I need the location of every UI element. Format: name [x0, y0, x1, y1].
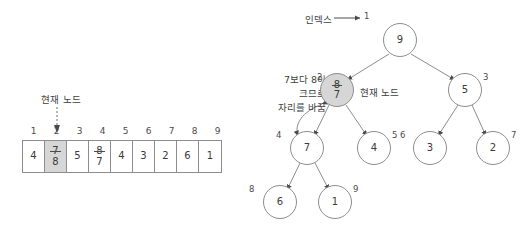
array-cell-value: 6: [183, 151, 191, 162]
tree-node-index-7: 7: [511, 130, 516, 140]
array-index-label: 4: [91, 126, 114, 136]
array-cell-old-value: 8: [95, 146, 103, 157]
tree-node-1: 9: [383, 23, 417, 57]
heap-swap-diagram: 현재 노드 1 2 3 4 5 6 7 8 9 4 7 8: [0, 0, 526, 230]
array-index-label: 1: [22, 126, 45, 136]
array-index-label: 3: [68, 126, 91, 136]
tree-node-value: 3: [427, 143, 433, 154]
tree-node-3: 5: [448, 73, 482, 107]
array-section: 현재 노드 1 2 3 4 5 6 7 8 9 4 7 8: [0, 0, 250, 230]
array-cell: 1: [199, 141, 221, 172]
tree-node-value: 2: [490, 143, 496, 154]
array-index-label: 5: [114, 126, 137, 136]
swap-note-line: 자리를 바꿈: [278, 101, 326, 115]
array-row: 4 7 8 5 8 7 4 3 2 6: [22, 140, 222, 173]
array-index-label: 2: [45, 126, 68, 136]
array-cell-current: 7 8: [45, 141, 67, 172]
array-cell-swapped: 8 7: [89, 141, 111, 172]
array-cell-value: 3: [139, 151, 147, 162]
tree-node-index-3: 3: [483, 72, 488, 82]
swap-note-line: 크므로: [278, 87, 326, 101]
array-cell-new-value: 8: [51, 157, 59, 168]
array-cell-value: 4: [117, 151, 125, 162]
tree-node-4: 7: [290, 131, 324, 165]
tree-node-2-current: 8 7: [320, 73, 354, 107]
array-cell-value: 2: [161, 151, 169, 162]
root-index-label: 1: [364, 11, 369, 21]
array-cell: 2: [155, 141, 177, 172]
tree-node-index-6: 6: [400, 130, 405, 140]
tree-node-value: 9: [397, 35, 403, 46]
array-cell: 4: [23, 141, 45, 172]
tree-node-value: 1: [332, 197, 338, 208]
array-index-label: 8: [183, 126, 206, 136]
tree-node-8: 6: [263, 185, 297, 219]
array-cell-old-value: 7: [51, 146, 59, 157]
array-cell-value: 5: [73, 151, 81, 162]
tree-node-9: 1: [318, 185, 352, 219]
tree-node-value: 4: [371, 143, 377, 154]
tree-node-index-5: 5: [392, 130, 397, 140]
tree-node-index-9: 9: [353, 184, 358, 194]
array-index-labels: 1 2 3 4 5 6 7 8 9: [22, 126, 229, 136]
array-index-label: 9: [206, 126, 229, 136]
tree-node-new-value: 7: [334, 90, 340, 101]
array-cell: 5: [67, 141, 89, 172]
tree-node-5: 4: [357, 131, 391, 165]
tree-node-value: 5: [462, 85, 468, 96]
array-cell: 3: [133, 141, 155, 172]
array-index-label: 7: [160, 126, 183, 136]
tree-node-value: 6: [277, 197, 283, 208]
tree-node-6: 3: [413, 131, 447, 165]
array-index-label: 6: [137, 126, 160, 136]
tree-section: 인덱스 1 7보다 8이 크므로 자리를 바꿈 현재 노드 9 2 8 7 3 …: [250, 0, 526, 230]
tree-node-index-4: 4: [276, 130, 281, 140]
array-cell: 4: [111, 141, 133, 172]
array-cell-new-value: 7: [95, 157, 103, 168]
array-cell-value: 1: [206, 151, 214, 162]
array-cell: 6: [177, 141, 199, 172]
array-pointer-arrow: [0, 0, 250, 230]
tree-current-node-label: 현재 노드: [360, 85, 399, 99]
index-caption: 인덱스: [305, 12, 332, 26]
array-cell-value: 4: [29, 151, 37, 162]
tree-node-7: 2: [476, 131, 510, 165]
tree-node-old-value: 8: [333, 80, 341, 91]
tree-node-index-8: 8: [249, 184, 254, 194]
tree-node-value: 7: [304, 143, 310, 154]
